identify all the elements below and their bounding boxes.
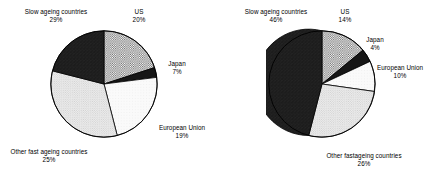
right-chart-panel: Slow ageing countries 46% US 14% Japan 4…: [220, 0, 440, 187]
right-label-other-fastageing-pct: 26%: [322, 160, 406, 168]
right-label-us: US 14%: [330, 8, 360, 23]
right-label-eu: European Union 10%: [366, 64, 434, 79]
right-label-japan-text: Japan: [366, 36, 383, 43]
right-label-other-fastageing-text: Other fastageing countries: [326, 152, 401, 159]
left-label-japan-text: Japan: [168, 60, 185, 67]
left-label-eu-text: European Union: [159, 124, 205, 131]
pie-chart-figure: Slow ageing countries 29% US 20% Japan 7…: [0, 0, 440, 187]
right-label-slow-ageing-pct: 46%: [228, 16, 324, 24]
right-label-us-pct: 14%: [330, 16, 360, 24]
left-chart-panel: Slow ageing countries 29% US 20% Japan 7…: [0, 0, 220, 187]
right-label-other-fastageing: Other fastageing countries 26%: [322, 152, 406, 167]
left-label-japan-pct: 7%: [160, 68, 194, 76]
left-label-eu-pct: 19%: [148, 132, 216, 140]
left-label-other-fast-ageing-text: Other fast ageing countries: [11, 148, 88, 155]
right-label-eu-pct: 10%: [366, 72, 434, 80]
left-label-other-fast-ageing: Other fast ageing countries 25%: [10, 148, 88, 163]
left-label-us-text: US: [135, 8, 144, 15]
left-label-slow-ageing: Slow ageing countries 29%: [8, 8, 104, 23]
left-label-japan: Japan 7%: [160, 60, 194, 75]
left-pie-graphic: [48, 28, 160, 140]
right-label-eu-text: European Union: [377, 64, 423, 71]
left-label-slow-ageing-pct: 29%: [8, 16, 104, 24]
left-label-slow-ageing-text: Slow ageing countries: [25, 8, 88, 15]
right-label-japan-pct: 4%: [358, 44, 392, 52]
left-label-eu: European Union 19%: [148, 124, 216, 139]
right-label-us-text: US: [341, 8, 350, 15]
left-label-other-fast-ageing-pct: 25%: [10, 156, 88, 164]
left-label-us: US 20%: [124, 8, 154, 23]
left-label-us-pct: 20%: [124, 16, 154, 24]
right-label-slow-ageing-text: Slow ageing countries: [245, 8, 308, 15]
right-label-slow-ageing: Slow ageing countries 46%: [228, 8, 324, 23]
right-label-japan: Japan 4%: [358, 36, 392, 51]
